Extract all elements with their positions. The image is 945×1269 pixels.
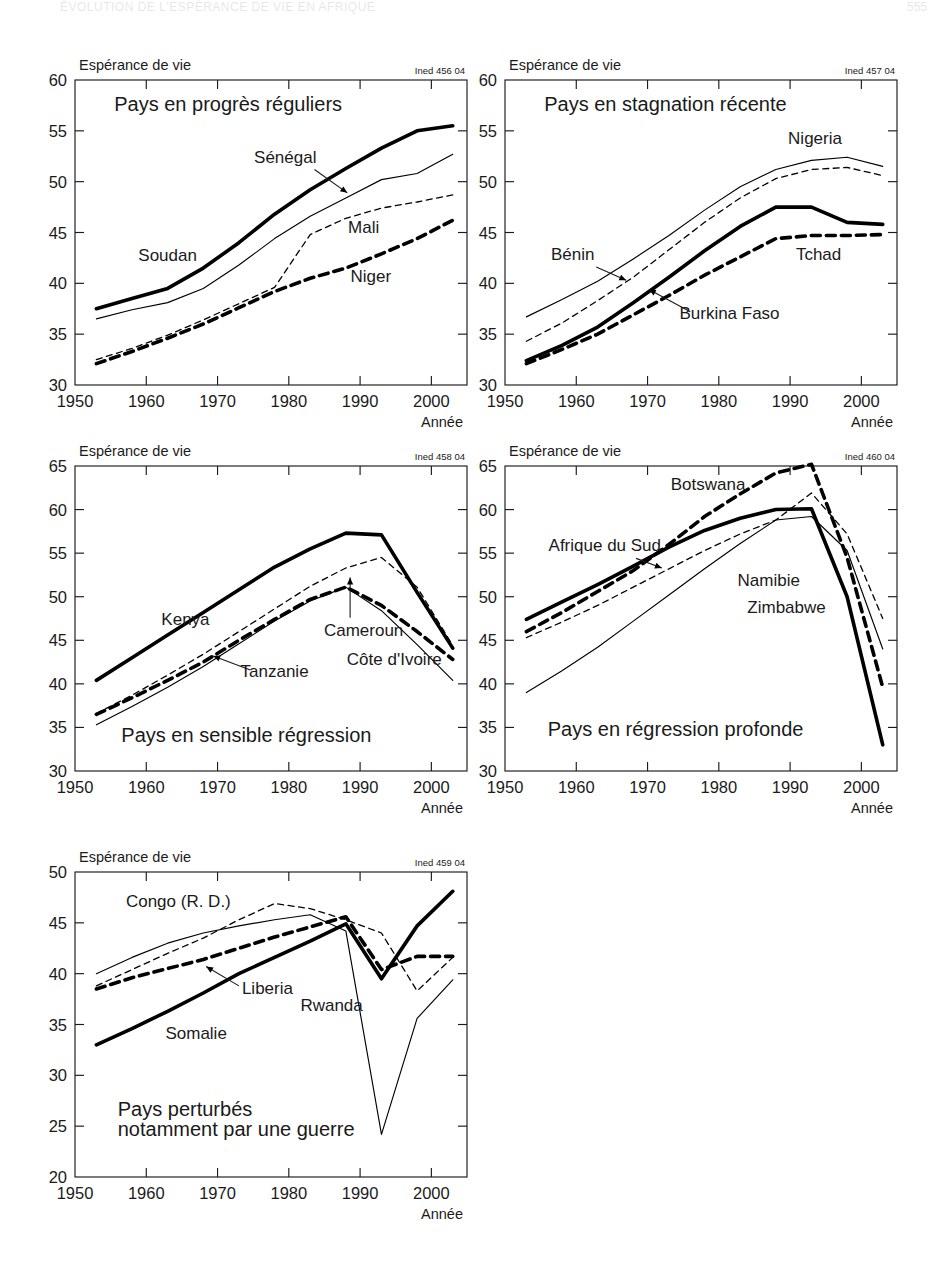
series-line-somalie [96,891,452,1045]
x-tick-label: 1990 [342,778,379,796]
y-tick-label: 60 [479,71,497,89]
y-tick-label: 55 [49,544,67,562]
chart-panel-pays-perturbes: Espérance de vieIned 459 042025303540455… [22,838,495,1229]
series-label-congo-r-d: Congo (R. D.) [126,892,231,911]
page-header: ÉVOLUTION DE L'ESPÉRANCE DE VIE EN AFRIQ… [0,0,945,16]
x-tick-label: 1970 [199,1184,236,1202]
series-line-burkina-faso [526,207,882,361]
y-tick-label: 40 [479,274,497,292]
x-axis-title: Année [851,414,893,430]
panel-title: Pays en progrès réguliers [114,93,342,115]
y-tick-label: 35 [49,718,67,736]
y-tick-label: 45 [49,224,67,242]
x-tick-label: 1950 [57,1184,94,1202]
series-label-nigeria: Nigeria [788,129,842,148]
y-tick-label: 50 [49,173,67,191]
series-label-tchad: Tchad [796,245,841,264]
y-tick-label: 40 [479,675,497,693]
x-tick-label: 1990 [772,778,809,796]
panel-title: Pays en sensible régression [121,724,371,746]
x-tick-label: 1960 [128,392,165,410]
x-tick-label: 2000 [413,1184,450,1202]
source-code: Ined 459 04 [415,857,465,868]
series-line-botswana [526,464,882,687]
x-tick-label: 1980 [270,778,307,796]
y-tick-label: 55 [49,122,67,140]
y-tick-label: 60 [479,501,497,519]
y-tick-label: 45 [479,224,497,242]
page-header-title: ÉVOLUTION DE L'ESPÉRANCE DE VIE EN AFRIQ… [60,0,375,14]
source-code: Ined 457 04 [845,65,895,76]
x-tick-label: 1950 [487,392,524,410]
y-tick-label: 65 [49,457,67,475]
series-label-c-te-d-ivoire: Côte d'Ivoire [347,650,442,669]
y-tick-label: 35 [479,718,497,736]
y-tick-label: 50 [479,173,497,191]
x-axis-title: Année [851,800,893,816]
x-tick-label: 1960 [128,778,165,796]
x-tick-label: 1990 [772,392,809,410]
x-tick-label: 1950 [57,392,94,410]
series-label-burkina-faso: Burkina Faso [679,304,779,323]
x-axis-title: Année [421,1206,463,1222]
y-tick-label: 50 [49,588,67,606]
plot-frame [75,80,467,385]
x-tick-label: 1990 [342,392,379,410]
leader-arrowhead [340,186,347,192]
y-tick-label: 40 [49,675,67,693]
y-tick-label: 60 [49,501,67,519]
chart-1-svg: Espérance de vieIned 456 043035404550556… [22,46,495,437]
chart-5-svg: Espérance de vieIned 459 042025303540455… [22,838,495,1229]
chart-4-svg: Espérance de vieIned 460 043035404550556… [452,432,925,823]
panel-title: Pays en régression profonde [548,718,804,740]
x-tick-label: 2000 [843,778,880,796]
series-label-zimbabwe: Zimbabwe [747,598,825,617]
y-tick-label: 55 [479,122,497,140]
y-tick-label: 25 [49,1117,67,1135]
series-label-soudan: Soudan [138,246,197,265]
y-tick-label: 55 [479,544,497,562]
x-tick-label: 2000 [843,392,880,410]
x-tick-label: 1960 [558,392,595,410]
series-label-b-nin: Bénin [551,245,594,264]
x-tick-label: 1950 [487,778,524,796]
y-tick-label: 35 [479,325,497,343]
series-label-namibie: Namibie [738,571,800,590]
x-tick-label: 1970 [199,392,236,410]
leader-arrowhead [213,656,220,662]
series-label-kenya: Kenya [161,610,210,629]
panel-title-line2: notamment par une guerre [118,1118,355,1140]
x-tick-label: 1990 [342,1184,379,1202]
x-tick-label: 2000 [413,778,450,796]
series-label-niger: Niger [350,267,391,286]
series-label-botswana: Botswana [671,475,746,494]
y-tick-label: 45 [49,914,67,932]
y-axis-title: Espérance de vie [79,849,191,865]
y-tick-label: 35 [49,325,67,343]
x-tick-label: 2000 [413,392,450,410]
source-code: Ined 460 04 [845,451,895,462]
y-tick-label: 65 [479,457,497,475]
y-axis-title: Espérance de vie [509,57,621,73]
chart-2-svg: Espérance de vieIned 457 043035404550556… [452,46,925,437]
leader-arrowhead [654,563,661,569]
chart-panel-progres-reguliers: Espérance de vieIned 456 043035404550556… [22,46,495,437]
x-tick-label: 1970 [199,778,236,796]
x-tick-label: 1960 [128,1184,165,1202]
y-tick-label: 40 [49,965,67,983]
y-axis-title: Espérance de vie [79,443,191,459]
y-tick-label: 35 [49,1016,67,1034]
series-label-tanzanie: Tanzanie [241,662,309,681]
x-tick-label: 1950 [57,778,94,796]
y-tick-label: 45 [479,631,497,649]
series-label-cameroun: Cameroun [324,621,403,640]
chart-panel-sensible-regression: Espérance de vieIned 458 043035404550556… [22,432,495,823]
chart-3-svg: Espérance de vieIned 458 043035404550556… [22,432,495,823]
plot-frame [505,80,897,385]
leader-arrowhead [347,578,353,585]
y-axis-title: Espérance de vie [509,443,621,459]
series-line-mali [96,195,452,360]
y-tick-label: 45 [49,631,67,649]
leader-arrowhead [206,967,213,973]
y-tick-label: 30 [49,1066,67,1084]
